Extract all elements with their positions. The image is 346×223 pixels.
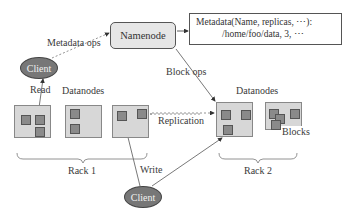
rack1-datanode-2 [65,105,102,138]
client-label: Client [131,192,155,203]
write-client-node: Client [124,186,162,208]
rack2-datanode-1 [216,102,253,137]
block [21,115,31,125]
metadata-ops-label: Metadata ops [47,37,101,48]
block [70,109,80,119]
block [271,120,281,130]
rack1-datanode-3 [112,105,149,138]
block [35,127,45,137]
metadata-line-2: /home/foo/data, 3, ⋯ [196,28,341,40]
block [241,110,251,120]
block [70,124,80,134]
rack2-label: Rack 2 [244,165,272,176]
blocks-label: Blocks [281,126,311,137]
block [221,110,231,120]
write-arrow-rack2 [152,138,222,186]
namenode-node: Namenode [110,22,176,49]
block [35,115,45,125]
read-label: Read [30,84,51,95]
block [117,111,127,121]
client-label: Client [27,63,51,74]
metadata-box: Metadata(Name, replicas, ⋯): /home/foo/d… [189,13,342,45]
replication-label: Replication [158,115,204,126]
rack2-brace [219,153,297,163]
rack1-datanodes-label: Datanodes [62,85,104,96]
rack1-label: Rack 1 [68,165,96,176]
read-client-node: Client [20,57,58,79]
write-label: Write [140,164,162,175]
rack1-brace [17,153,147,163]
rack2-datanodes-label: Datanodes [236,85,278,96]
metadata-line-1: Metadata(Name, replicas, ⋯): [196,16,341,28]
block [290,109,300,119]
block [137,109,147,119]
hdfs-architecture-diagram: Namenode Metadata(Name, replicas, ⋯): /h… [0,0,346,223]
namenode-label: Namenode [120,30,165,41]
rack1-datanode-1 [14,105,51,138]
block [223,125,233,135]
block-ops-label: Block ops [166,66,206,77]
